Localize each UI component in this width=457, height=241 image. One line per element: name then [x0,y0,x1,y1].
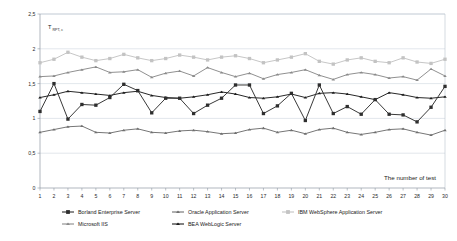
data-point-marker [286,210,290,214]
data-point-marker [415,60,418,63]
data-point-marker [220,97,223,100]
data-point-marker [66,51,69,54]
data-point-marker [276,104,279,107]
series-line [40,52,445,64]
data-point-marker [248,83,251,86]
x-tick-label: 18 [275,193,281,199]
data-point-marker [276,58,279,61]
legend-item-label: IBM WebSphere Application Server [298,209,383,215]
x-tick-label: 16 [247,193,253,199]
x-tick-label: 29 [428,193,434,199]
y-tick-label: 2 [33,46,36,52]
data-point-marker [94,104,97,107]
x-tick-label: 4 [80,193,83,199]
data-point-marker [66,210,70,214]
y-tick-label: 0,5 [28,150,35,156]
data-point-marker [262,61,265,64]
data-point-marker [304,52,307,55]
data-point-marker [415,120,418,123]
line-chart: 00,511,522,51234567891011121314151617181… [0,0,457,241]
data-point-marker [66,117,69,120]
data-point-marker [290,55,293,58]
x-tick-label: 24 [358,193,364,199]
data-point-marker [262,112,265,115]
y-tick-label: 2,5 [28,11,35,17]
series-line [40,91,445,99]
data-point-marker [38,110,41,113]
x-tick-label: 28 [414,193,420,199]
data-point-marker [429,106,432,109]
legend-item[interactable]: Oracle Application Server [172,209,249,215]
x-tick-label: 2 [53,193,56,199]
x-tick-label: 19 [288,193,294,199]
series-borland-enterprise-server [38,82,446,124]
data-point-marker [206,66,210,68]
y-tick-label: 1 [33,115,36,121]
legend-item-label: Microsoft IIS [78,221,108,227]
y-tick-label: 0 [33,185,36,191]
x-tick-label: 10 [163,193,169,199]
series-line [40,84,445,122]
legend-item-label: Borland Enterprise Server [78,209,140,215]
x-tick-label: 14 [219,193,225,199]
data-point-marker [318,83,321,86]
series-bea-weblogic-server [38,90,447,101]
data-point-marker [80,103,83,106]
x-tick-label: 3 [66,193,69,199]
data-point-marker [387,113,390,116]
data-point-marker [443,85,446,88]
x-axis-title: The number of test [384,174,436,181]
data-point-marker [234,54,237,57]
x-tick-label: 21 [316,193,322,199]
x-tick-label: 1 [39,193,42,199]
legend-item-label: BEA WebLogic Server [188,221,241,227]
data-point-marker [346,105,349,108]
x-tick-label: 12 [191,193,197,199]
data-point-marker [38,61,41,64]
data-point-marker [304,119,307,122]
data-point-marker [80,55,83,58]
x-tick-label: 30 [442,193,448,199]
data-point-marker [443,58,446,61]
data-point-marker [374,98,377,101]
data-point-marker [108,57,111,60]
legend-item[interactable]: IBM WebSphere Application Server [282,209,383,215]
data-point-marker [332,112,335,115]
data-point-marker [401,56,404,59]
series-microsoft-iis [38,66,447,81]
data-point-marker [150,111,153,114]
data-point-marker [94,59,97,62]
data-point-marker [360,56,363,59]
data-point-marker [220,55,223,58]
data-point-marker [429,68,433,70]
data-point-marker [122,83,125,86]
data-point-marker [150,59,153,62]
data-point-marker [122,53,125,56]
data-point-marker [178,53,181,56]
x-tick-label: 23 [344,193,350,199]
data-point-marker [318,60,321,63]
data-point-marker [401,113,404,116]
x-tick-label: 7 [122,193,125,199]
legend-item[interactable]: Borland Enterprise Server [62,209,140,215]
data-point-marker [332,62,335,65]
data-point-marker [108,96,111,99]
data-point-marker [164,57,167,60]
x-tick-label: 11 [177,193,182,199]
data-point-marker [206,58,209,61]
x-tick-label: 26 [386,193,392,199]
legend-item[interactable]: BEA WebLogic Server [172,221,241,227]
x-tick-label: 15 [233,193,239,199]
data-point-marker [206,104,209,107]
series-ibm-websphere-application-server [38,51,446,66]
data-point-marker [192,112,195,115]
data-point-marker [387,61,390,64]
y-axis-title: T [48,24,52,30]
series-oracle-application-server [38,125,447,136]
legend-item[interactable]: Microsoft IIS [62,221,108,227]
x-axis-ticks: 1234567891011121314151617181920212223242… [39,188,448,199]
x-tick-label: 6 [108,193,111,199]
chart-container: 00,511,522,51234567891011121314151617181… [0,0,457,241]
data-point-marker [429,62,432,65]
x-tick-label: 22 [330,193,336,199]
